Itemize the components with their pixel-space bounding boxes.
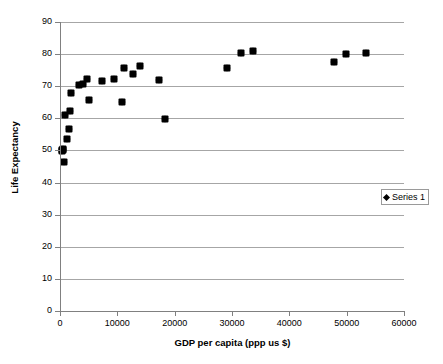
data-point xyxy=(130,70,137,77)
x-axis-tick xyxy=(175,311,176,316)
legend-series-label: Series 1 xyxy=(392,192,425,202)
data-point xyxy=(60,158,67,165)
data-point xyxy=(85,96,92,103)
scatter-chart: 0102030405060708090 01000020000300004000… xyxy=(0,0,443,364)
data-point xyxy=(155,77,162,84)
data-point xyxy=(66,107,73,114)
legend-diamond-icon xyxy=(384,195,389,200)
x-axis-tick xyxy=(347,311,348,316)
y-axis-tick xyxy=(55,54,60,55)
gridline xyxy=(60,86,404,87)
data-point xyxy=(99,78,106,85)
y-axis-tick-label: 80 xyxy=(0,49,52,58)
data-point xyxy=(67,90,74,97)
gridline xyxy=(60,215,404,216)
gridline xyxy=(60,247,404,248)
x-axis-tick-label: 10000 xyxy=(87,319,147,328)
data-point xyxy=(65,126,72,133)
y-axis-tick-label: 20 xyxy=(0,242,52,251)
data-point xyxy=(224,65,231,72)
data-point xyxy=(110,76,117,83)
x-axis-tick xyxy=(60,311,61,316)
data-point xyxy=(120,64,127,71)
x-axis-tick xyxy=(404,311,405,316)
y-axis-tick xyxy=(55,150,60,151)
x-axis-tick-label: 30000 xyxy=(202,319,262,328)
data-point xyxy=(249,47,256,54)
gridline xyxy=(60,118,404,119)
data-point xyxy=(161,115,168,122)
y-axis-line xyxy=(60,22,61,311)
y-axis-tick xyxy=(55,215,60,216)
y-axis-tick xyxy=(55,22,60,23)
gridline xyxy=(60,150,404,151)
plot-area xyxy=(60,22,404,311)
gridline xyxy=(60,22,404,23)
y-axis-tick-label: 90 xyxy=(0,17,52,26)
x-axis-title: GDP per capita (ppp us $) xyxy=(60,337,405,348)
y-axis-tick xyxy=(55,183,60,184)
data-point xyxy=(237,49,244,56)
y-axis-title: Life Expectancy xyxy=(9,98,20,218)
x-axis-tick-label: 0 xyxy=(30,319,90,328)
gridline xyxy=(60,54,404,55)
data-point xyxy=(363,49,370,56)
data-point xyxy=(118,98,125,105)
y-axis-tick-label: 70 xyxy=(0,81,52,90)
y-axis-tick xyxy=(55,118,60,119)
x-axis-tick-label: 20000 xyxy=(145,319,205,328)
x-axis-tick-label: 50000 xyxy=(317,319,377,328)
y-axis-tick xyxy=(55,86,60,87)
y-axis-tick xyxy=(55,247,60,248)
y-axis-tick-label: 10 xyxy=(0,274,52,283)
x-axis-tick xyxy=(289,311,290,316)
x-axis-tick-label: 40000 xyxy=(259,319,319,328)
x-axis-tick-label: 60000 xyxy=(374,319,434,328)
data-point xyxy=(63,135,70,142)
y-axis-tick xyxy=(55,279,60,280)
gridline xyxy=(60,183,404,184)
data-point xyxy=(342,51,349,58)
x-axis-tick xyxy=(117,311,118,316)
data-point xyxy=(331,58,338,65)
y-axis-tick-label: 0 xyxy=(0,306,52,315)
x-axis-tick xyxy=(232,311,233,316)
chart-legend[interactable]: Series 1 xyxy=(381,189,429,205)
gridline xyxy=(60,279,404,280)
data-point xyxy=(136,62,143,69)
data-point xyxy=(83,75,90,82)
